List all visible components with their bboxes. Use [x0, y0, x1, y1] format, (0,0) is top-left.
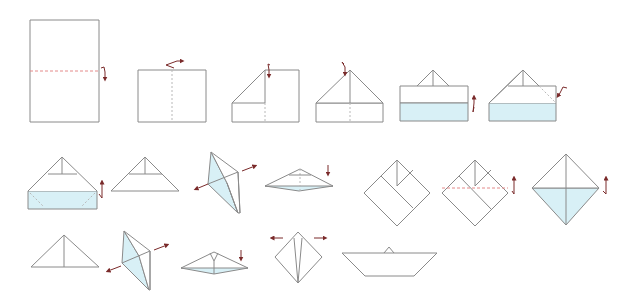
step-8-paper-hat [111, 157, 179, 191]
step-12-diamond-fold-line [442, 160, 514, 226]
step-15-open-triangle [108, 231, 167, 290]
step-9-open-hat [196, 152, 255, 213]
step-14-triangle [31, 235, 99, 267]
step-17-diamond-pull [272, 232, 325, 283]
origami-diagram [0, 0, 638, 302]
step-6-fold-flap [489, 70, 567, 121]
step-4-house-shape [316, 62, 383, 122]
step-18-finished-boat [342, 247, 437, 276]
step-7-hat-with-brim [28, 157, 102, 209]
step-3-left-corner-folded [232, 64, 299, 122]
step-13-diamond-colored-half [532, 154, 606, 225]
step-1-portrait-sheet [30, 20, 105, 122]
step-5-colored-strip [400, 70, 474, 121]
step-10-flatten [265, 165, 333, 191]
step-11-diamond [364, 160, 430, 226]
step-2-folded-half [138, 61, 206, 122]
step-16-flatten [181, 250, 248, 274]
